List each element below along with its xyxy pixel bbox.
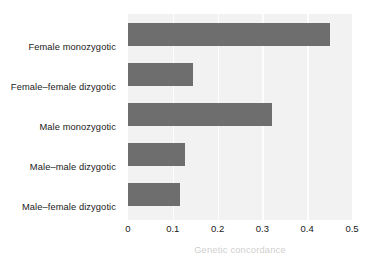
category-axis-labels: Female monozygotic Female–female dizygot… [0,18,122,220]
bar-female-monozygotic [128,23,330,46]
bar-chart-figure: Female monozygotic Female–female dizygot… [0,0,369,270]
plot-area [128,14,352,220]
xtick-0: 0 [125,223,130,234]
bar-male-male-dizygotic [128,143,185,166]
bar-female-female-dizygotic [128,63,193,86]
category-label-male-male-dizygotic: Male–male dizygotic [0,162,116,172]
xtick-0.3: 0.3 [256,223,269,234]
xtick-0.4: 0.4 [301,223,314,234]
bar-male-monozygotic [128,103,272,126]
category-label-male-female-dizygotic: Male–female dizygotic [0,202,116,212]
xtick-0.5: 0.5 [345,223,358,234]
x-axis-title: Genetic concordance [128,245,352,255]
value-axis-ticks: 0 0.1 0.2 0.3 0.4 0.5 [128,221,352,237]
category-label-female-monozygotic: Female monozygotic [0,42,116,52]
category-label-female-female-dizygotic: Female–female dizygotic [0,82,116,92]
bar-male-female-dizygotic [128,183,180,206]
xtick-0.2: 0.2 [211,223,224,234]
category-label-male-monozygotic: Male monozygotic [0,122,116,132]
xtick-0.1: 0.1 [166,223,179,234]
